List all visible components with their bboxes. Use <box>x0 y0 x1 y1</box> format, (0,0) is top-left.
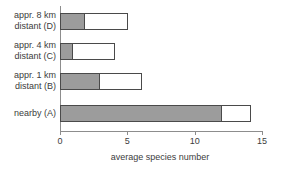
bar-row <box>60 73 142 90</box>
bar-chart: 051015 appr. 8 kmdistant (D)appr. 4 kmdi… <box>0 0 284 173</box>
x-tick-0 <box>60 131 61 135</box>
category-label-line1: appr. 1 km <box>0 70 56 81</box>
x-tick-label: 0 <box>57 136 62 147</box>
x-axis-title: average species number <box>0 152 284 163</box>
bar-row <box>60 105 251 122</box>
category-label: appr. 8 kmdistant (D) <box>0 10 60 32</box>
x-tick-label: 10 <box>190 136 200 147</box>
bar-row <box>60 13 128 30</box>
bar-row <box>60 43 115 60</box>
category-label-line2: distant (B) <box>0 81 56 92</box>
category-label: appr. 4 kmdistant (C) <box>0 40 60 62</box>
bar-segment-shaded <box>61 14 85 29</box>
category-label-line1: appr. 8 km <box>0 10 56 21</box>
category-label: appr. 1 kmdistant (B) <box>0 70 60 92</box>
x-tick-label: 5 <box>125 136 130 147</box>
x-tick-label: 15 <box>257 136 267 147</box>
bar-segment-shaded <box>61 74 100 89</box>
x-tick-10 <box>195 131 196 135</box>
category-label-line1: nearby (A) <box>0 108 56 119</box>
bar-segment-shaded <box>61 106 222 121</box>
x-axis-line <box>60 131 263 132</box>
category-label: nearby (A) <box>0 108 60 119</box>
category-label-line2: distant (C) <box>0 51 56 62</box>
bar-segment-shaded <box>61 44 73 59</box>
category-label-line1: appr. 4 km <box>0 40 56 51</box>
category-label-line2: distant (D) <box>0 21 56 32</box>
x-tick-15 <box>262 131 263 135</box>
x-tick-5 <box>127 131 128 135</box>
